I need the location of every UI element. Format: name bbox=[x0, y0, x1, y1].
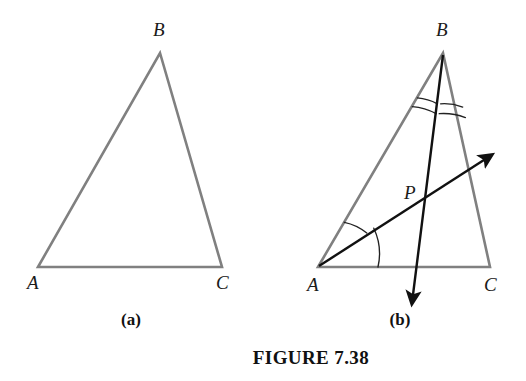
panel-b-angle-marks-A bbox=[344, 222, 379, 267]
cevian-from-b-line bbox=[413, 55, 443, 298]
figure-container: A B C (a) bbox=[0, 0, 526, 381]
panel-b-vertex-label-A: A bbox=[305, 274, 319, 295]
ray-from-a-line bbox=[319, 158, 487, 266]
figure-canvas: A B C (a) bbox=[0, 0, 526, 381]
panel-b-triangle bbox=[318, 53, 490, 267]
panel-a-vertex-label-A: A bbox=[25, 272, 39, 293]
panel-a-vertex-label-B: B bbox=[153, 19, 165, 40]
panel-b-caption: (b) bbox=[390, 310, 411, 329]
panel-b: A B C P (b) bbox=[305, 19, 497, 329]
angle-arc-B-left-outer bbox=[412, 107, 436, 114]
angle-arc-A-upper bbox=[344, 222, 367, 233]
panel-a-triangle-outline bbox=[38, 53, 222, 267]
panel-a-triangle bbox=[38, 53, 222, 267]
angle-arc-B-left-inner bbox=[417, 98, 437, 104]
angle-arc-B-right-outer bbox=[439, 114, 465, 118]
panel-b-vertex-label-C: C bbox=[484, 274, 497, 295]
panel-b-triangle-outline bbox=[318, 53, 490, 267]
panel-a-caption: (a) bbox=[121, 310, 141, 329]
panel-a: A B C (a) bbox=[25, 19, 229, 329]
panel-b-vertex-label-B: B bbox=[436, 19, 448, 40]
panel-b-point-label-P: P bbox=[403, 182, 416, 203]
panel-a-vertex-label-C: C bbox=[216, 272, 229, 293]
panel-b-angle-marks-B bbox=[412, 98, 465, 118]
angle-arc-A-lower bbox=[374, 228, 380, 267]
angle-arc-B-right-inner bbox=[441, 104, 463, 107]
figure-caption: FIGURE 7.38 bbox=[253, 347, 369, 368]
